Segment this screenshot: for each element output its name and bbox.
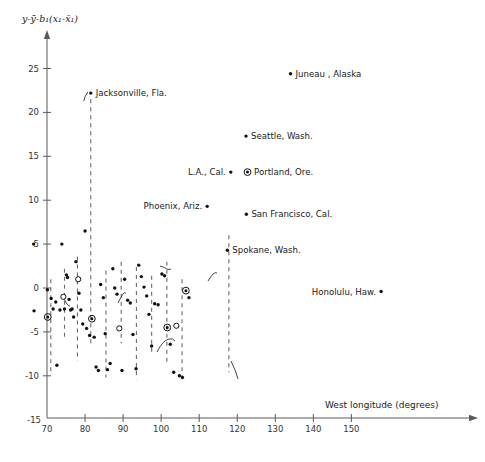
data-point[interactable] xyxy=(79,308,82,311)
data-point[interactable] xyxy=(46,315,49,318)
data-point[interactable] xyxy=(166,326,169,329)
city-data-point[interactable] xyxy=(205,205,208,208)
data-point[interactable] xyxy=(83,229,86,232)
data-point[interactable] xyxy=(113,286,116,289)
data-point[interactable] xyxy=(174,323,179,328)
data-point[interactable] xyxy=(58,308,61,311)
data-point[interactable] xyxy=(76,277,81,282)
data-point[interactable] xyxy=(163,274,166,277)
data-point[interactable] xyxy=(150,344,153,347)
data-point[interactable] xyxy=(66,276,69,279)
data-point[interactable] xyxy=(102,296,105,299)
y-axis-arrowhead xyxy=(44,30,50,39)
city-label: Honolulu, Haw. xyxy=(312,287,376,297)
annotations-layer: Jacksonville, Fla.Juneau , AlaskaSeattle… xyxy=(84,69,376,297)
connector-squiggle xyxy=(231,361,238,379)
city-label: Phoenix, Ariz. xyxy=(144,201,203,211)
data-point[interactable] xyxy=(97,369,100,372)
data-point[interactable] xyxy=(117,326,122,331)
data-point[interactable] xyxy=(104,332,107,335)
city-data-point[interactable] xyxy=(289,72,292,75)
x-tick-label: 120 xyxy=(229,424,245,434)
data-point[interactable] xyxy=(88,334,91,337)
data-point[interactable] xyxy=(63,307,66,310)
data-point[interactable] xyxy=(70,307,73,310)
y-tick-label: 5 xyxy=(34,239,39,249)
y-tick-label: 15 xyxy=(28,151,39,161)
data-point[interactable] xyxy=(126,299,129,302)
data-point[interactable] xyxy=(123,278,126,281)
connector-squiggle xyxy=(157,339,175,352)
data-point[interactable] xyxy=(142,285,145,288)
city-data-point[interactable] xyxy=(244,134,247,137)
city-data-point[interactable] xyxy=(246,171,249,174)
city-label: Jacksonville, Fla. xyxy=(95,88,167,98)
data-point[interactable] xyxy=(32,309,35,312)
data-point[interactable] xyxy=(61,294,66,299)
data-point[interactable] xyxy=(55,364,58,367)
data-points-layer xyxy=(32,72,383,379)
x-tick-label: 70 xyxy=(42,424,53,434)
data-point[interactable] xyxy=(120,369,123,372)
data-point[interactable] xyxy=(81,322,84,325)
data-point[interactable] xyxy=(187,296,190,299)
data-point[interactable] xyxy=(74,260,77,263)
data-point[interactable] xyxy=(51,307,54,310)
data-point[interactable] xyxy=(46,288,49,291)
y-tick-label: -5 xyxy=(31,327,39,337)
city-label: Spokane, Wash. xyxy=(232,245,300,255)
city-label: Seattle, Wash. xyxy=(251,131,313,141)
city-label: Portland, Ore. xyxy=(254,167,313,177)
data-point[interactable] xyxy=(178,374,181,377)
data-point[interactable] xyxy=(49,297,52,300)
data-point[interactable] xyxy=(94,365,97,368)
y-tick-label: -10 xyxy=(25,371,39,381)
city-data-point[interactable] xyxy=(226,249,229,252)
data-point[interactable] xyxy=(67,298,70,301)
data-point[interactable] xyxy=(145,294,148,297)
data-point[interactable] xyxy=(60,242,63,245)
data-point[interactable] xyxy=(77,292,80,295)
data-point[interactable] xyxy=(147,313,150,316)
data-point[interactable] xyxy=(129,301,132,304)
y-axis-title-text: y-ȳ-b₁(x₁-x̄₁) xyxy=(21,13,78,24)
city-data-point[interactable] xyxy=(379,290,382,293)
city-label: Juneau , Alaska xyxy=(295,69,362,79)
data-point[interactable] xyxy=(181,376,184,379)
data-point[interactable] xyxy=(156,303,159,306)
data-point[interactable] xyxy=(172,371,175,374)
y-tick-label: 20 xyxy=(28,107,39,117)
data-point[interactable] xyxy=(131,333,134,336)
x-axis-title-text: West longitude (degrees) xyxy=(325,400,439,410)
x-tick-label: 90 xyxy=(118,424,129,434)
data-point[interactable] xyxy=(153,302,156,305)
city-data-point[interactable] xyxy=(229,170,232,173)
data-point[interactable] xyxy=(108,362,111,365)
x-tick-label: 130 xyxy=(267,424,283,434)
data-point[interactable] xyxy=(184,289,187,292)
y-tick-label: 10 xyxy=(28,195,39,205)
city-data-point[interactable] xyxy=(89,91,92,94)
x-tick-label: 150 xyxy=(343,424,359,434)
x-axis-arrowhead xyxy=(469,415,478,421)
city-data-point[interactable] xyxy=(245,213,248,216)
scatter-plot-canvas: Jacksonville, Fla.Juneau , AlaskaSeattle… xyxy=(0,0,485,462)
y-tick-label: -15 xyxy=(27,415,41,425)
data-point[interactable] xyxy=(140,275,143,278)
data-point[interactable] xyxy=(111,267,114,270)
chart-figure: Jacksonville, Fla.Juneau , AlaskaSeattle… xyxy=(0,0,485,462)
data-point[interactable] xyxy=(85,327,88,330)
data-point[interactable] xyxy=(115,292,118,295)
data-point[interactable] xyxy=(137,263,140,266)
data-point[interactable] xyxy=(90,317,93,320)
data-point[interactable] xyxy=(169,342,172,345)
data-point[interactable] xyxy=(54,300,57,303)
x-tick-label: 80 xyxy=(80,424,91,434)
data-point[interactable] xyxy=(99,283,102,286)
data-point[interactable] xyxy=(92,335,95,338)
data-point[interactable] xyxy=(72,315,75,318)
axis-labels-layer: -15-10-505101520257080901001101201301401… xyxy=(21,13,439,434)
x-tick-label: 140 xyxy=(305,424,321,434)
data-point[interactable] xyxy=(106,368,109,371)
data-point[interactable] xyxy=(134,367,137,370)
